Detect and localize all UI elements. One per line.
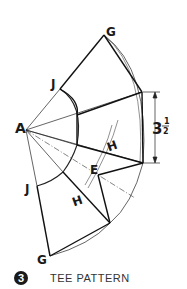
dimension-frac-den: 2 [163,127,169,136]
label-g-top: G [106,25,116,39]
label-h-upper: H [105,138,119,155]
label-j-bottom: J [24,182,29,196]
figure-caption-text: TEE PATTERN [50,272,130,284]
pattern-outline [37,35,143,256]
center-line [26,130,135,198]
dimension-frac-num: 1 [164,117,170,126]
label-h-lower: H [70,193,84,210]
tee-pattern-diagram: A G J J G E H H 3 1 2 [0,0,187,289]
label-g-bottom: G [37,253,47,267]
figure-number-badge: 3 [14,271,28,285]
arcs [37,35,144,256]
label-e: E [90,163,98,177]
label-j-top: J [50,77,55,91]
radial-lines [26,89,143,186]
label-a: A [15,120,26,136]
figure-caption: 3 TEE PATTERN [14,270,130,286]
dimension-whole: 3 [152,120,162,138]
